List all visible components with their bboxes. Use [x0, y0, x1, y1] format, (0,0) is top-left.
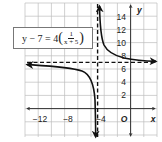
- x-tick-label: −4: [96, 114, 106, 124]
- fraction: 1 x + 5: [64, 31, 78, 46]
- x-tick-label: −12: [33, 114, 48, 124]
- y-tick-label: 10: [117, 38, 127, 48]
- y-axis-label: y: [136, 5, 143, 15]
- y-tick-label: 8: [121, 51, 126, 61]
- y-tick-label: 2: [121, 90, 126, 100]
- curve-left-branch: [27, 65, 96, 138]
- equation-lhs: y − 7 = 4: [22, 33, 58, 44]
- origin-label: O: [121, 114, 128, 124]
- equation-box: y − 7 = 4 ( 1 x + 5 ): [13, 27, 93, 49]
- x-tick-label: −8: [63, 114, 73, 124]
- right-paren: ): [79, 31, 84, 45]
- fraction-denominator: x + 5: [64, 39, 78, 46]
- rational-function-graph: −12 −8 −4 O x 2 4 6 8 10 12 14 y: [0, 0, 162, 142]
- left-paren: (: [58, 31, 63, 45]
- y-tick-label: 6: [121, 64, 126, 74]
- y-tick-label: 12: [117, 25, 127, 35]
- curve-right-branch: [100, 6, 157, 61]
- x-axis-label: x: [150, 114, 157, 124]
- y-tick-label: 14: [117, 12, 127, 22]
- y-tick-label: 4: [121, 77, 126, 87]
